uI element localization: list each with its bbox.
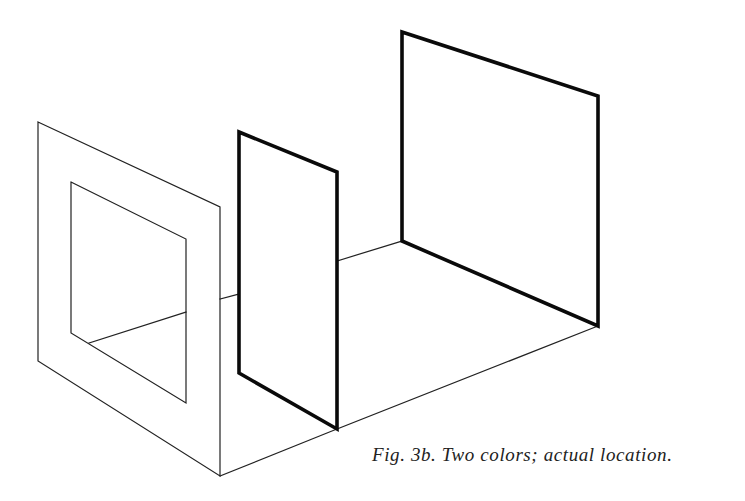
middle-panel <box>239 132 337 429</box>
front-frame-outer <box>38 122 220 476</box>
floor-line-middle-to-back <box>337 241 402 261</box>
figure-caption: Fig. 3b. Two colors; actual location. <box>372 444 673 466</box>
floor-line-inner-window <box>89 312 186 343</box>
front-frame-inner-window <box>71 182 186 403</box>
floor-line-frame-to-middle <box>220 294 239 299</box>
floor-front-edge-right <box>337 326 598 429</box>
floor-front-edge-left <box>220 429 337 476</box>
back-panel <box>402 32 598 326</box>
floor-plane <box>89 241 598 476</box>
perspective-diagram <box>0 0 745 501</box>
front-frame <box>38 122 220 476</box>
